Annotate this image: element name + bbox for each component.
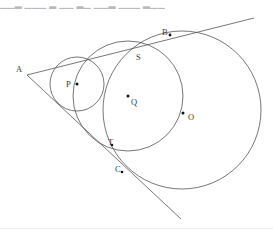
bottom-divider — [0, 228, 273, 229]
point-q-center — [127, 95, 130, 98]
point-c-tangency — [121, 171, 124, 174]
geometry-diagram — [0, 0, 273, 232]
label-point-p: P — [66, 80, 71, 89]
label-point-a: A — [16, 65, 22, 74]
label-point-o: O — [188, 113, 194, 122]
label-point-t: T — [108, 138, 113, 147]
label-point-q: Q — [131, 98, 137, 107]
point-b-tangency — [169, 34, 172, 37]
label-point-b: B — [162, 28, 168, 37]
label-point-s: S — [136, 53, 141, 62]
label-point-c: C — [115, 165, 121, 174]
circles-group — [50, 31, 261, 189]
upper-tangent-line — [27, 18, 254, 75]
tangent-lines-group — [27, 18, 254, 219]
diagram-page: ▁▁▂ ▁▁▁ ▂ ▁▁ ▂▁ ▁▁▂ ▁▁▁ ▂▁▁ A B S P Q O … — [0, 0, 273, 232]
point-p-center — [76, 83, 79, 86]
circle-o-large — [103, 31, 261, 189]
point-o-tangency — [182, 112, 185, 115]
